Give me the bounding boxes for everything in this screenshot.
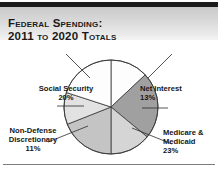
slice-label-net-interest-name: Net Interest [140,84,182,93]
slice-label-medicare-line-1: Medicare & [163,128,204,137]
slice-label-social-security-percent: 20% [28,93,104,102]
slice-label-non-defense-line-1: Non-Defense [10,126,57,135]
slice-label-non-defense-discretionary: Non-Defense Discretionary 11% [2,126,64,154]
slice-label-net-interest: Net Interest 13% [140,84,214,102]
leader-line-net-interest [148,54,172,78]
slice-label-medicare-line-2: Medicaid [163,137,218,146]
slice-label-non-defense-line-2: Discretionary [2,135,64,144]
slice-label-non-defense-percent: 11% [2,144,64,153]
slice-label-medicare-percent: 23% [163,146,218,155]
slice-label-net-interest-percent: 13% [140,93,214,102]
header-band: Federal Spending: 2011 to 2020 Totals [0,7,218,40]
slice-label-medicare-medicaid: Medicare & Medicaid 23% [163,128,218,156]
bottom-divider-rule [3,164,215,165]
slice-label-social-security-name: Social Security [39,84,93,93]
chart-plot-area: Social Security 20% Net Interest 13% Non… [0,40,218,162]
chart-title-line-1: Federal Spending: [8,17,208,30]
slice-label-social-security: Social Security 20% [28,84,104,102]
pie-slices-group [64,60,158,154]
federal-spending-pie-figure: Federal Spending: 2011 to 2020 Totals So… [0,0,218,170]
